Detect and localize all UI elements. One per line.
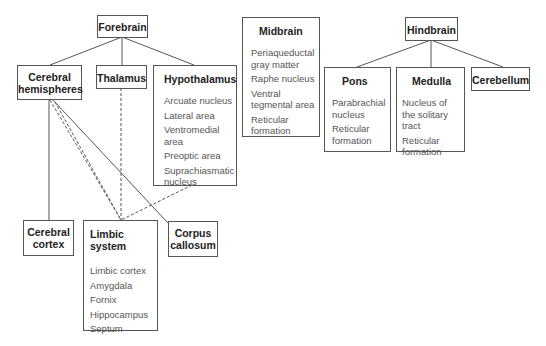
node-items: Nucleus of the solitary tract Reticular … [402, 97, 464, 158]
node-title-line: callosum [169, 239, 217, 251]
node-title: Medulla [402, 75, 464, 87]
node-hindbrain: Hindbrain [405, 17, 458, 41]
node-items: Arcuate nucleus Lateral area Ventromedia… [164, 95, 236, 188]
edge-forebrain-hemispheres [50, 37, 122, 65]
node-title: Hypothalamus [164, 73, 236, 85]
list-item: Fornix [90, 294, 157, 306]
edge-hemispheres-limbic-b [55, 102, 121, 220]
node-forebrain: Forebrain [97, 15, 148, 38]
edge-hindbrain-pons [357, 40, 431, 67]
list-item: Reticular formation [332, 123, 378, 146]
node-title-line: Cerebral [18, 71, 81, 83]
list-item: Reticular formation [402, 135, 448, 158]
list-item: Arcuate nucleus [164, 95, 236, 107]
list-item: Raphe nucleus [251, 73, 319, 85]
node-hypothalamus: Hypothalamus Arcuate nucleus Lateral are… [153, 65, 237, 186]
node-items: Limbic cortex Amygdala Fornix Hippocampu… [90, 265, 157, 335]
node-title-line: Cerebral [24, 226, 73, 238]
list-item: Amygdala [90, 280, 157, 292]
list-item: Limbic cortex [90, 265, 157, 277]
edge-hindbrain-cerebellum [431, 40, 503, 67]
list-item: Hippocampus [90, 309, 157, 321]
node-title: Pons [332, 75, 390, 87]
list-item: Preoptic area [164, 150, 236, 162]
node-title: Cerebellum [472, 74, 529, 86]
node-title: Forebrain [98, 21, 146, 33]
list-item: Reticular formation [251, 114, 301, 137]
node-title-line: Corpus [169, 227, 217, 239]
list-item: Ventral tegmental area [251, 88, 315, 111]
node-title-line: hemispheres [18, 83, 81, 95]
node-limbic-system: Limbic system Limbic cortex Amygdala For… [83, 220, 158, 331]
list-item: Lateral area [164, 110, 236, 122]
node-pons: Pons Parabrachial nucleus Reticular form… [324, 67, 391, 152]
node-title: Limbic system [90, 228, 157, 252]
node-title: Thalamus [97, 72, 146, 84]
node-thalamus: Thalamus [96, 65, 147, 89]
edge-hemispheres-callosum [52, 99, 168, 223]
node-items: Periaqueductal gray matter Raphe nucleus… [251, 47, 319, 137]
list-item: Parabrachial nucleus [332, 97, 388, 120]
edge-hypothalamus-limbic [121, 185, 192, 220]
list-item: Nucleus of the solitary tract [402, 97, 462, 132]
node-midbrain: Midbrain Periaqueductal gray matter Raph… [242, 17, 320, 137]
node-corpus-callosum: Corpus callosum [168, 221, 218, 257]
node-title-line: cortex [24, 238, 73, 250]
list-item: Suprachiasmatic nucleus [164, 165, 230, 188]
edge-hemispheres-limbic-a [50, 100, 121, 220]
node-title: Hindbrain [407, 24, 456, 36]
list-item: Ventromedial area [164, 124, 236, 147]
node-title: Midbrain [251, 25, 319, 37]
list-item: Periaqueductal gray matter [251, 47, 315, 70]
node-cerebral-cortex: Cerebral cortex [23, 220, 74, 256]
list-item: Septum [90, 323, 157, 335]
node-cerebral-hemispheres: Cerebral hemispheres [17, 65, 82, 100]
edge-forebrain-hypothalamus [122, 37, 194, 65]
node-cerebellum: Cerebellum [471, 67, 530, 91]
node-medulla: Medulla Nucleus of the solitary tract Re… [396, 67, 465, 152]
node-items: Parabrachial nucleus Reticular formation [332, 97, 390, 146]
